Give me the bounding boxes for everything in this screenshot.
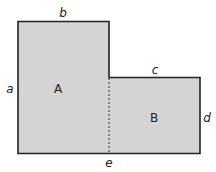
- side-label-b: b: [59, 6, 67, 20]
- side-label-d: d: [203, 111, 211, 125]
- side-label-c: c: [152, 63, 159, 77]
- region-label-a: A: [54, 82, 63, 96]
- l-shape-diagram: A B a b c d e: [0, 0, 216, 172]
- side-label-e: e: [105, 156, 112, 170]
- region-label-b: B: [150, 111, 158, 125]
- side-label-a: a: [6, 82, 13, 96]
